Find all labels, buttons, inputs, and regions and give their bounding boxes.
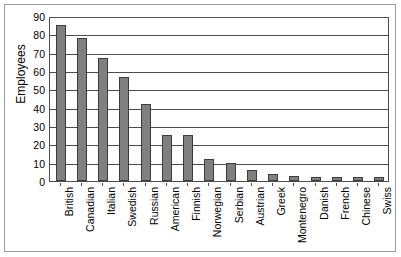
x-axis-tick [293,183,294,186]
y-axis-tick-label: 20 [23,140,45,150]
x-axis-tick-label: Swiss [382,187,393,214]
x-axis-tick-label: Danish [319,187,330,220]
x-axis-tick-label: Canadian [85,187,96,232]
bar [268,174,278,181]
x-axis-tick [187,183,188,186]
x-axis-tick [102,183,103,186]
y-axis-tick-label: 10 [23,159,45,169]
x-axis-tick [123,183,124,186]
bar [141,104,151,181]
y-axis-tick-label: 40 [23,104,45,114]
bar [162,135,172,181]
x-axis-tick [230,183,231,186]
y-axis-tick-label: 0 [23,177,45,187]
chart-frame: Employees 0102030405060708090 BritishCan… [4,4,396,252]
x-axis-tick [251,183,252,186]
x-axis-tick-label: Greek [276,187,287,216]
x-axis-tick [336,183,337,186]
bars-group [50,18,388,181]
y-axis-tick-label: 80 [23,30,45,40]
x-axis-labels: BritishCanadianItalianSwedishRussianAmer… [49,183,389,249]
y-axis-tick-label: 90 [23,12,45,22]
x-axis-tick-label: Finnish [191,187,202,221]
x-axis-tick [166,183,167,186]
bar [119,77,129,182]
bar [353,177,363,181]
bar [374,177,384,181]
x-axis-tick-label: Serbian [234,187,245,223]
x-axis-tick [272,183,273,186]
x-axis-tick [208,183,209,186]
x-axis-tick-label: Norwegian [212,187,223,237]
bar [311,177,321,181]
bar [226,163,236,181]
x-axis-tick [81,183,82,186]
bar [332,177,342,181]
bar [289,176,299,182]
y-axis-tick-label: 60 [23,67,45,77]
plot-area [49,17,389,182]
x-axis-tick-label: Italian [106,187,117,215]
bar [56,25,66,181]
y-axis-tick-label: 50 [23,85,45,95]
x-axis-tick-label: American [170,187,181,231]
x-axis-tick-label: Austrian [255,187,266,226]
y-axis-tick-label: 70 [23,49,45,59]
x-axis-tick [60,183,61,186]
x-axis-tick [357,183,358,186]
x-axis-tick-label: French [340,187,351,220]
x-axis-tick-label: Chinese [361,187,372,226]
x-axis-tick [315,183,316,186]
bar [77,38,87,181]
bar [247,170,257,181]
x-axis-tick-label: Swedish [127,187,138,227]
x-axis-tick-label: Montenegro [297,187,308,243]
x-axis-tick [145,183,146,186]
x-axis-tick-label: British [64,187,75,216]
y-axis-tick-label: 30 [23,122,45,132]
bar [204,159,214,181]
x-axis-tick [378,183,379,186]
bar [98,58,108,181]
y-axis-tick-labels: 0102030405060708090 [19,17,45,182]
x-axis-tick-label: Russian [149,187,160,225]
bar [183,135,193,181]
